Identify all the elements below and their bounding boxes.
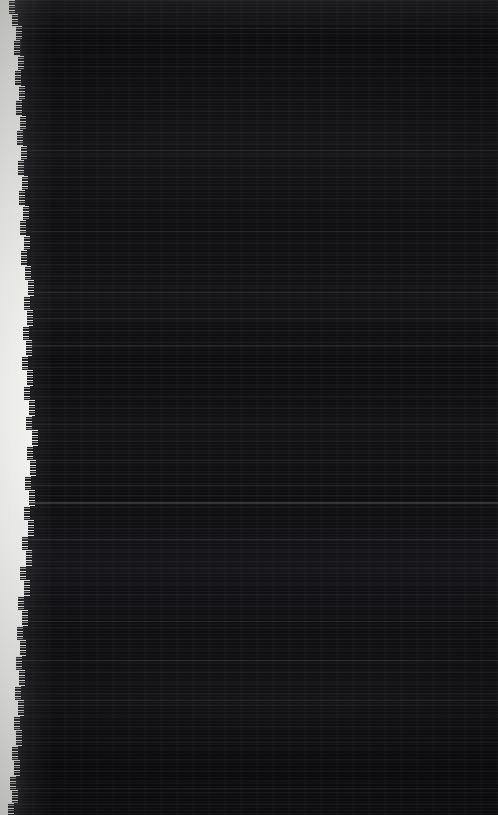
scanned-page-image [0, 0, 498, 815]
dark-field [0, 0, 498, 815]
